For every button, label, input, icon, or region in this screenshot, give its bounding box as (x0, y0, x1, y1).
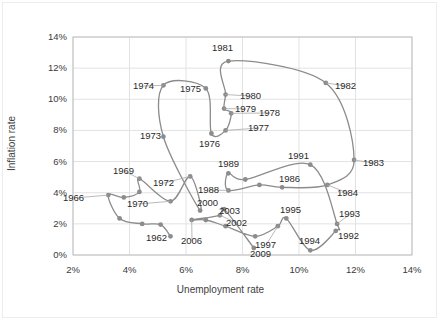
data-point-marker (203, 218, 208, 223)
data-point-marker (161, 134, 166, 139)
data-point-label: 1979 (235, 103, 256, 114)
data-point-label: 1977 (248, 122, 269, 133)
data-point-label: 1983 (363, 157, 384, 168)
data-point-marker (280, 185, 285, 190)
data-point-marker (137, 190, 142, 195)
data-point-marker (137, 176, 142, 181)
data-point-label: 1993 (339, 208, 360, 219)
data-point-marker (198, 208, 203, 213)
data-point-label: 1980 (240, 90, 261, 101)
data-point-marker (140, 222, 145, 227)
data-point-label: 2009 (250, 248, 271, 259)
x-axis-tick-label: 8% (226, 264, 260, 275)
y-axis-title: Inflation rate (6, 89, 17, 199)
data-point-label: 1991 (288, 150, 309, 161)
data-point-label: 1976 (199, 138, 220, 149)
y-axis-tick-label: 12% (33, 62, 67, 73)
data-point-label: 1969 (113, 165, 134, 176)
data-point-label: 1973 (140, 130, 161, 141)
data-point-label: 1962 (146, 232, 167, 243)
data-point-label: 1986 (279, 173, 300, 184)
data-point-marker (253, 234, 258, 239)
y-axis-tick-label: 6% (33, 156, 67, 167)
data-point-label: 1984 (337, 187, 358, 198)
y-axis-tick-label: 14% (33, 31, 67, 42)
y-axis-tick-label: 2% (33, 218, 67, 229)
data-point-marker (158, 222, 163, 227)
data-point-label: 1975 (180, 83, 201, 94)
data-point-label: 1981 (212, 42, 233, 53)
data-point-label: 2000 (197, 197, 218, 208)
data-point-label: 1970 (127, 198, 148, 209)
y-axis-tick-label: 8% (33, 124, 67, 135)
data-point-label: 1992 (338, 230, 359, 241)
x-axis-tick-label: 10% (282, 264, 316, 275)
data-point-marker (226, 59, 231, 64)
data-point-marker (168, 234, 173, 239)
data-point-label: 2003 (219, 205, 240, 216)
data-point-marker (188, 174, 193, 179)
data-point-marker (308, 248, 313, 253)
data-point-marker (226, 171, 231, 176)
x-axis-tick-label: 4% (113, 264, 147, 275)
data-point-marker (243, 177, 248, 182)
y-axis-tick-label: 0% (33, 249, 67, 260)
data-point-marker (117, 216, 122, 221)
x-axis-tick-label: 14% (395, 264, 429, 275)
data-point-marker (203, 86, 208, 91)
y-axis-tick-label: 10% (33, 93, 67, 104)
data-point-marker (121, 195, 126, 200)
data-point-label: 1995 (280, 204, 301, 215)
x-axis-tick-label: 6% (169, 264, 203, 275)
y-axis-tick-label: 4% (33, 187, 67, 198)
data-point-label: 1974 (133, 80, 154, 91)
phillips-curve-chart: 0%2%4%6%8%10%12%14% 2%4%6%8%10%12%14% 19… (0, 0, 441, 322)
data-point-marker (308, 162, 313, 167)
data-point-label: 2006 (181, 235, 202, 246)
x-axis-tick-label: 12% (339, 264, 373, 275)
data-point-marker (257, 183, 262, 188)
data-point-marker (209, 131, 214, 136)
data-point-label: 1982 (335, 80, 356, 91)
data-point-label: 1994 (299, 235, 320, 246)
data-point-label: 1978 (259, 107, 280, 118)
data-point-marker (284, 216, 289, 221)
data-point-label: 1989 (218, 158, 239, 169)
x-axis-title: Unemployment rate (0, 284, 441, 295)
data-point-label: 2002 (226, 217, 247, 228)
data-point-label: 1972 (153, 177, 174, 188)
data-point-label: 1966 (63, 192, 84, 203)
data-point-label: 1988 (198, 184, 219, 195)
x-axis-tick-label: 2% (56, 264, 90, 275)
